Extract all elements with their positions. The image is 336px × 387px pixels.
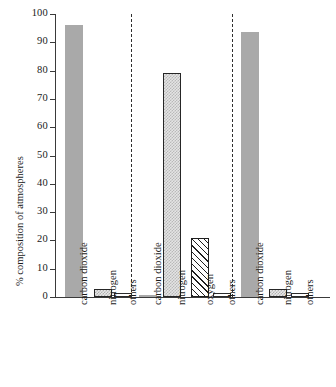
plot-area xyxy=(0,14,336,297)
x-label-carbon-dioxide-g3: carbon dioxide xyxy=(254,242,265,305)
x-label-others-g1: others xyxy=(127,279,138,305)
x-label-nitrogen-g2: nitrogen xyxy=(176,270,187,305)
x-label-oxygen-g2: oxygen xyxy=(204,274,215,305)
bar-nitrogen-g2 xyxy=(163,73,181,297)
x-label-nitrogen-g1: nitrogen xyxy=(107,270,118,305)
x-label-nitrogen-g3: nitrogen xyxy=(282,270,293,305)
bar-chart: % composition of atmospheres 01020304050… xyxy=(0,0,336,387)
x-label-others-g3: others xyxy=(304,279,315,305)
x-label-carbon-dioxide-g2: carbon dioxide xyxy=(152,242,163,305)
x-label-carbon-dioxide-g1: carbon dioxide xyxy=(78,242,89,305)
group-divider-2 xyxy=(232,14,233,297)
group-divider-1 xyxy=(131,14,132,297)
